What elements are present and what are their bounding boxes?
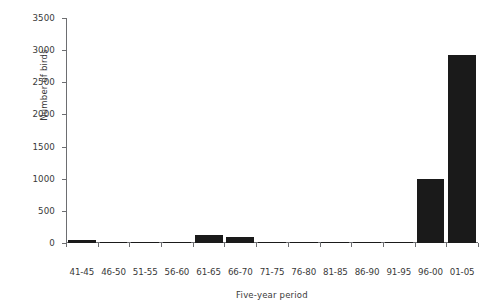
y-tick-label: 2500: [32, 77, 55, 87]
x-tick: [193, 243, 194, 247]
x-tick-label: 81-85: [323, 267, 348, 277]
x-tick: [66, 243, 67, 247]
x-tick-label: 76-80: [291, 267, 316, 277]
x-tick-label: 61-65: [196, 267, 221, 277]
x-tick: [256, 243, 257, 247]
bar: [68, 240, 96, 243]
bar: [448, 55, 476, 243]
bar: [290, 242, 318, 244]
x-tick-label: 56-60: [165, 267, 190, 277]
x-tick: [383, 243, 384, 247]
plot-area: 0500100015002000250030003500 41-4546-505…: [66, 18, 478, 243]
y-tick-label: 0: [49, 238, 55, 248]
y-tick-label: 1000: [32, 174, 55, 184]
x-tick-label: 51-55: [133, 267, 158, 277]
bar: [258, 242, 286, 244]
x-tick: [351, 243, 352, 247]
bar: [195, 235, 223, 243]
y-tick-label: 3500: [32, 13, 55, 23]
x-tick: [224, 243, 225, 247]
y-tick-label: 1500: [32, 142, 55, 152]
bar: [226, 237, 254, 243]
x-tick-label: 96-00: [418, 267, 443, 277]
x-tick-label: 86-90: [355, 267, 380, 277]
x-axis-title: Five-year period: [66, 290, 478, 300]
y-tick-label: 3000: [32, 45, 55, 55]
x-tick-label: 46-50: [101, 267, 126, 277]
x-tick-label: 66-70: [228, 267, 253, 277]
bar: [163, 242, 191, 244]
bar-series: [66, 18, 478, 243]
y-tick-label: 2000: [32, 109, 55, 119]
bar: [321, 242, 349, 244]
x-tick-label: 41-45: [69, 267, 94, 277]
x-tick: [446, 243, 447, 247]
y-tick-label: 500: [38, 206, 55, 216]
x-tick-label: 91-95: [386, 267, 411, 277]
x-tick: [415, 243, 416, 247]
x-tick: [98, 243, 99, 247]
x-tick-label: 01-05: [450, 267, 475, 277]
x-tick: [129, 243, 130, 247]
x-tick: [288, 243, 289, 247]
x-tick: [161, 243, 162, 247]
bar: [385, 242, 413, 244]
bar: [131, 242, 159, 244]
x-tick: [478, 243, 479, 247]
bar: [353, 242, 381, 244]
bar: [100, 242, 128, 244]
x-tick: [320, 243, 321, 247]
bar: [417, 179, 445, 243]
x-tick-label: 71-75: [260, 267, 285, 277]
